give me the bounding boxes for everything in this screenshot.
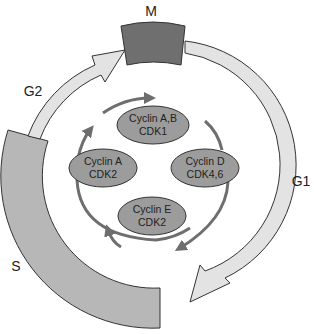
cdk-label: CDK1 bbox=[139, 125, 167, 137]
cyclin-label: Cyclin A bbox=[84, 155, 122, 167]
inner-arrow-bottom-right bbox=[180, 182, 228, 248]
phase-label-g2: G2 bbox=[24, 83, 43, 99]
cyclin-label: Cyclin A,B bbox=[129, 112, 177, 124]
cdk-label: CDK2 bbox=[89, 168, 117, 180]
complex-cyclin-e-cdk2: Cyclin E CDK2 bbox=[118, 197, 186, 235]
phase-label-m: M bbox=[145, 3, 157, 19]
g2-arc bbox=[28, 50, 125, 139]
inner-arc-right bbox=[205, 121, 222, 150]
cyclin-label: Cyclin D bbox=[185, 155, 225, 167]
phase-label-s: S bbox=[11, 258, 20, 274]
phase-label-g1: G1 bbox=[292, 173, 311, 189]
complex-cyclin-d-cdk46: Cyclin D CDK4,6 bbox=[171, 149, 239, 187]
cdk-label: CDK2 bbox=[138, 216, 166, 228]
cell-cycle-diagram: Cyclin A,B CDK1 Cyclin D CDK4,6 Cyclin E… bbox=[0, 0, 314, 334]
complex-cyclin-ab-cdk1: Cyclin A,B CDK1 bbox=[117, 106, 189, 144]
cdk-label: CDK4,6 bbox=[187, 168, 224, 180]
cyclin-label: Cyclin E bbox=[133, 203, 172, 215]
cycle-svg: Cyclin A,B CDK1 Cyclin D CDK4,6 Cyclin E… bbox=[0, 0, 314, 334]
complex-cyclin-a-cdk2: Cyclin A CDK2 bbox=[69, 149, 137, 187]
m-block bbox=[121, 22, 185, 65]
